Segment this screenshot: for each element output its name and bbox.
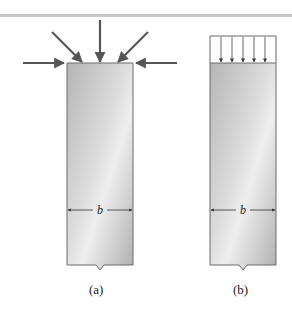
arrow-right-diagonal-icon	[118, 32, 148, 62]
column-a	[67, 63, 133, 270]
dimension-label-b: b	[240, 203, 246, 217]
caption-b: (b)	[233, 282, 248, 298]
caption-a: (a)	[89, 282, 103, 298]
arrow-left-diagonal-icon	[52, 32, 82, 62]
distributed-load-b	[210, 36, 276, 63]
dimension-label-a: b	[97, 203, 103, 217]
column-loading-diagram: b b	[0, 0, 292, 311]
column-b	[210, 63, 276, 270]
panel-b: b	[210, 36, 276, 270]
force-arrows-a	[23, 20, 177, 63]
panel-a: b	[23, 20, 177, 270]
